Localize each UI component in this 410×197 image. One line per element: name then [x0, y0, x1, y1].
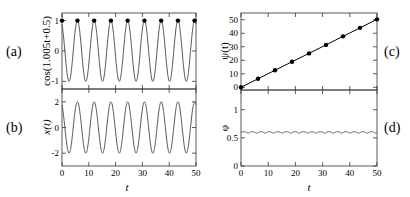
- data-marker: [75, 18, 79, 22]
- data-marker: [256, 77, 260, 81]
- x-tick-label: 20: [111, 168, 121, 178]
- x-tick-label: 40: [165, 168, 175, 178]
- y-axis-label-a: cos(1.005t+0.5): [40, 16, 53, 86]
- x-tick-label: 0: [239, 168, 244, 178]
- y-axis-label-c: ψ(t): [218, 42, 231, 60]
- x-tick-label: 0: [60, 168, 65, 178]
- data-marker: [142, 18, 146, 22]
- data-marker: [290, 60, 294, 64]
- x-tick-label: 30: [318, 168, 328, 178]
- panel-b: 01020304050-202: [52, 89, 202, 178]
- panel-d: 0102030405000.51: [227, 90, 382, 178]
- data-marker: [375, 17, 379, 21]
- x-axis-label-b: t: [125, 181, 129, 193]
- y-axis-label-b: x(t): [40, 119, 53, 136]
- data-marker: [176, 18, 180, 22]
- y-tick-label: 10: [229, 69, 239, 79]
- y-tick-label: 0: [234, 82, 239, 92]
- y-tick-label: -2: [52, 148, 60, 158]
- panel-label-b: (b): [6, 120, 23, 136]
- panel-label-d: (d): [384, 120, 401, 136]
- data-marker: [60, 18, 64, 22]
- data-marker: [109, 18, 113, 22]
- y-axis-label-d: φ: [218, 125, 230, 131]
- data-marker: [358, 26, 362, 30]
- data-marker: [273, 68, 277, 72]
- y-tick-label: 1: [234, 105, 239, 115]
- y-tick-label: 0: [55, 123, 60, 133]
- data-marker: [307, 51, 311, 55]
- x-tick-label: 50: [373, 168, 383, 178]
- y-tick-label: 0: [234, 161, 239, 171]
- y-tick-label: 20: [229, 55, 239, 65]
- data-marker: [92, 18, 96, 22]
- data-marker: [125, 18, 129, 22]
- data-marker: [192, 18, 196, 22]
- y-tick-label: 1: [55, 16, 60, 26]
- series-line: [62, 21, 196, 82]
- y-tick-label: 0: [55, 46, 60, 56]
- data-marker: [324, 43, 328, 47]
- panel-c: 01020304050: [229, 13, 379, 92]
- x-tick-label: 40: [345, 168, 355, 178]
- plot-frame: [241, 90, 377, 166]
- data-marker: [341, 34, 345, 38]
- series-line: [241, 132, 377, 134]
- x-tick-label: 10: [264, 168, 274, 178]
- y-tick-label: 40: [229, 28, 239, 38]
- data-marker: [239, 85, 243, 89]
- panel-a: -101: [52, 13, 197, 89]
- data-marker: [159, 18, 163, 22]
- panel-label-a: (a): [6, 44, 22, 60]
- x-tick-label: 30: [138, 168, 148, 178]
- x-tick-label: 20: [291, 168, 301, 178]
- x-axis-label-d: t: [307, 181, 311, 193]
- y-tick-label: 50: [229, 15, 239, 25]
- series-line: [62, 102, 196, 153]
- y-tick-label: 2: [55, 97, 60, 107]
- y-tick-label: 0.5: [227, 133, 239, 143]
- x-tick-label: 50: [192, 168, 202, 178]
- y-tick-label: 30: [229, 42, 239, 52]
- figure: -101 01020304050-202 01020304050 0102030…: [0, 0, 410, 197]
- x-tick-label: 10: [84, 168, 94, 178]
- y-tick-label: -1: [52, 76, 60, 86]
- panel-label-c: (c): [384, 44, 400, 60]
